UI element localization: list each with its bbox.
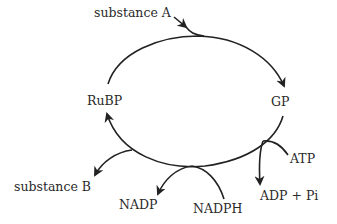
label-gp: GP — [271, 96, 289, 109]
arrow-atp-in — [263, 141, 288, 155]
arc-rubp-to-gp — [108, 36, 284, 86]
arrow-nadph-in — [192, 166, 224, 199]
arrow-substance-b-out — [95, 150, 132, 175]
label-nadph: NADPH — [193, 203, 242, 216]
calvin-cycle-diagram: substance A GP RuBP substance B NADP NAD… — [0, 0, 337, 224]
label-nadp: NADP — [119, 199, 157, 212]
arrow-nadp-out — [158, 166, 192, 194]
label-atp: ATP — [290, 153, 315, 166]
label-rubp: RuBP — [87, 95, 122, 108]
label-adp-pi: ADP + Pi — [260, 190, 318, 203]
label-substance-a: substance A — [94, 7, 171, 20]
arc-gp-to-rubp — [107, 114, 283, 167]
arrow-substance-a — [174, 17, 186, 27]
label-substance-b: substance B — [14, 181, 91, 194]
arrow-substance-a-join — [186, 27, 204, 36]
